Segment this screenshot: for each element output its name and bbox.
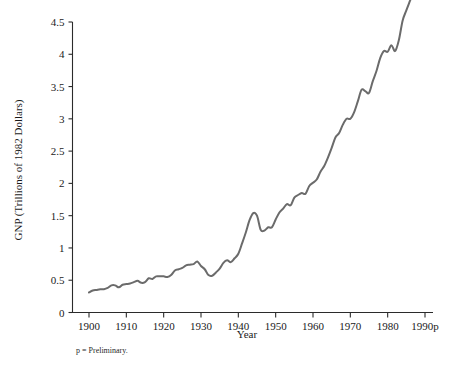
y-axis-tick-labels: 00.511.522.533.544.5 (51, 16, 65, 319)
x-axis-title: Year (237, 328, 258, 340)
y-tick-label: 2 (59, 177, 65, 189)
x-tick-label: 1910 (115, 320, 138, 332)
y-tick-label: 0 (59, 307, 65, 319)
y-tick-label: 0.5 (51, 274, 65, 286)
y-tick-label: 3.5 (51, 81, 65, 93)
x-tick-label: 1900 (78, 320, 101, 332)
y-tick-label: 3 (59, 113, 65, 125)
x-tick-label: 1960 (302, 320, 325, 332)
y-axis-title: GNP (Trillions of 1982 Dollars) (12, 99, 25, 240)
y-tick-label: 1 (59, 242, 65, 254)
x-tick-label: 1980 (377, 320, 400, 332)
y-tick-label: 2.5 (51, 145, 65, 157)
x-tick-label: 1930 (190, 320, 213, 332)
footnote-preliminary: p = Preliminary. (76, 346, 128, 355)
gnp-line-chart: 1900191019201930194019501960197019801990… (0, 0, 465, 375)
gnp-data-line (89, 0, 425, 292)
x-axis-tick-labels: 1900191019201930194019501960197019801990… (78, 320, 439, 332)
x-tick-label: 1950 (265, 320, 288, 332)
y-axis-tick-marks (69, 22, 73, 313)
y-tick-label: 4 (59, 48, 65, 60)
x-tick-label: 1920 (153, 320, 176, 332)
y-tick-label: 4.5 (51, 16, 65, 28)
x-tick-label: 1970 (339, 320, 362, 332)
x-tick-label: 1990p (411, 320, 439, 332)
x-axis-tick-marks (89, 313, 425, 318)
y-tick-label: 1.5 (51, 210, 65, 222)
